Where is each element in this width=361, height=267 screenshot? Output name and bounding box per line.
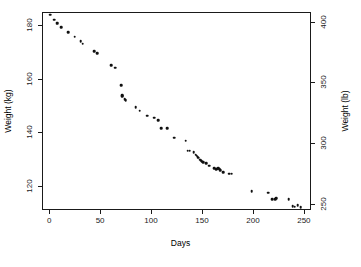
data-point [60, 26, 63, 29]
data-point [134, 106, 137, 109]
data-point [166, 127, 169, 130]
data-point [153, 116, 156, 119]
x-axis-tick [253, 210, 254, 214]
data-point [184, 140, 187, 143]
data-point [49, 13, 52, 16]
y-axis-right-tick-label: 300 [317, 138, 329, 147]
data-point [139, 109, 142, 112]
x-axis-tick-label: 200 [246, 216, 259, 225]
data-point [110, 64, 113, 67]
x-axis-tick [202, 210, 203, 214]
data-point [173, 136, 176, 139]
x-axis-tick-label: 0 [47, 216, 51, 225]
x-axis-tick [100, 210, 101, 214]
data-point [73, 35, 76, 38]
data-point [160, 127, 163, 130]
plot-area [42, 12, 311, 210]
data-point [208, 164, 211, 167]
x-axis-title: Days [0, 238, 361, 248]
data-point [287, 198, 290, 201]
data-point [230, 173, 233, 176]
data-point [67, 31, 70, 34]
x-axis-tick [49, 210, 50, 214]
y-axis-left-tick-label: 120 [23, 181, 35, 190]
data-point [251, 190, 254, 193]
x-axis-tick-label: 50 [96, 216, 105, 225]
y-axis-left-tick [38, 25, 42, 26]
y-axis-right-title: Weight (lb) [340, 91, 350, 132]
y-axis-left-title: Weight (kg) [3, 89, 13, 132]
y-axis-right-tick-label: 350 [317, 78, 329, 87]
y-axis-left-tick [38, 79, 42, 80]
data-point [275, 197, 278, 200]
y-axis-left-tick [38, 186, 42, 187]
data-point [53, 18, 56, 21]
y-axis-left-tick-label: 180 [23, 21, 35, 30]
y-axis-right-tick [311, 22, 315, 23]
scatter-points-layer [43, 13, 310, 209]
y-axis-left-tick-label: 140 [23, 128, 35, 137]
y-axis-left-tick [38, 132, 42, 133]
x-axis-tick [304, 210, 305, 214]
x-axis-tick-label: 150 [195, 216, 208, 225]
y-axis-right-tick [311, 143, 315, 144]
data-point [188, 149, 191, 152]
x-axis-tick-label: 250 [297, 216, 310, 225]
data-point [157, 119, 160, 122]
data-point [222, 171, 225, 174]
data-point [299, 206, 302, 209]
y-axis-right-tick-label: 400 [317, 17, 329, 26]
data-point [205, 162, 208, 165]
data-point [81, 42, 84, 45]
data-point [124, 99, 127, 102]
x-axis-tick-label: 100 [144, 216, 157, 225]
data-point [56, 23, 59, 26]
y-axis-right-tick-label: 250 [317, 199, 329, 208]
data-point [120, 84, 123, 87]
chart-figure: Weight (kg) Weight (lb) Days 05010015020… [0, 0, 361, 267]
data-point [146, 114, 149, 117]
y-axis-left-tick-label: 160 [23, 74, 35, 83]
y-axis-right-tick [311, 204, 315, 205]
y-axis-right-tick [311, 82, 315, 83]
data-point [267, 191, 270, 194]
data-point [114, 67, 117, 70]
x-axis-tick [151, 210, 152, 214]
data-point [96, 52, 99, 55]
